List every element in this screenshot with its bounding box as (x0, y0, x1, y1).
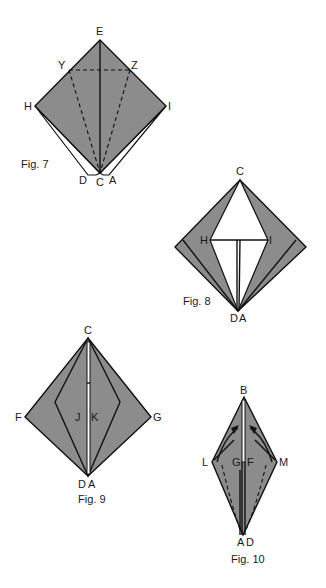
label-d: D (79, 174, 87, 186)
label-i: I (168, 100, 171, 112)
label-c: C (96, 176, 104, 188)
label-y: Y (58, 59, 66, 71)
label-a: A (237, 536, 245, 548)
label-h: H (200, 234, 208, 246)
center-line-2 (239, 240, 240, 311)
caption-fig-7: Fig. 7 (21, 158, 49, 170)
label-a: A (109, 174, 117, 186)
label-d: D (230, 312, 238, 324)
figure-10: B L M G F A D Fig. 10 (202, 384, 288, 565)
figure-7: E Y Z H I D C A Fig. 7 (21, 25, 171, 188)
label-a: A (88, 478, 96, 490)
figure-9: C F G J K D A Fig. 9 (15, 324, 162, 505)
label-m: M (279, 456, 288, 468)
label-c: C (84, 324, 92, 336)
label-f: F (247, 456, 254, 468)
label-a: A (239, 312, 247, 324)
label-g: G (232, 456, 241, 468)
label-z: Z (131, 59, 138, 71)
label-f: F (15, 411, 22, 423)
caption-fig-9: Fig. 9 (78, 493, 106, 505)
label-j: J (75, 411, 81, 423)
label-b: B (240, 384, 247, 396)
figure-8: C H I D A Fig. 8 (175, 165, 306, 324)
label-d: D (78, 478, 86, 490)
label-h: H (24, 100, 32, 112)
center-slit (87, 342, 90, 474)
caption-fig-10: Fig. 10 (231, 553, 265, 565)
label-d: D (246, 536, 254, 548)
label-k: K (91, 411, 99, 423)
label-i: I (269, 234, 272, 246)
label-g: G (153, 411, 162, 423)
label-c: C (236, 165, 244, 177)
center-slit (242, 400, 245, 462)
label-l: L (202, 456, 208, 468)
origami-diagram: E Y Z H I D C A Fig. 7 C H I D A Fig. 8 … (0, 0, 326, 588)
label-e: E (96, 25, 103, 37)
caption-fig-8: Fig. 8 (183, 295, 211, 307)
